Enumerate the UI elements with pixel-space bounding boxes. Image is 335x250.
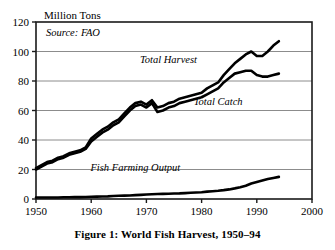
x-tick-label-1960: 1960 (80, 205, 103, 217)
y-tick-label-20: 20 (18, 164, 30, 176)
y-axis-tick-labels: 020406080100120 (13, 16, 30, 205)
x-tick-label-1970: 1970 (135, 205, 158, 217)
x-tick-label-1990: 1990 (246, 205, 269, 217)
figure-container: 020406080100120 195019601970198019902000… (0, 0, 335, 250)
y-tick-label-0: 0 (24, 193, 30, 205)
x-axis-tick-labels: 195019601970198019902000 (25, 205, 324, 217)
y-axis-unit-title: Million Tons (44, 9, 101, 21)
figure-caption: Figure 1: World Fish Harvest, 1950–94 (0, 228, 335, 240)
series-label-fish-farming-output: Fish Farming Output (89, 162, 181, 173)
series-line-fish-farming-output (36, 177, 279, 198)
chart-series-labels: Total HarvestTotal CatchFish Farming Out… (89, 54, 242, 173)
source-note: Source: FAO (46, 27, 100, 38)
x-tick-label-2000: 2000 (301, 205, 324, 217)
series-line-total-catch (36, 71, 279, 170)
y-tick-label-40: 40 (18, 134, 30, 146)
x-tick-label-1980: 1980 (191, 205, 214, 217)
y-tick-label-60: 60 (18, 105, 30, 117)
y-tick-label-120: 120 (13, 16, 30, 28)
series-label-total-harvest: Total Harvest (140, 54, 198, 65)
x-tick-label-1950: 1950 (25, 205, 48, 217)
series-label-total-catch: Total Catch (194, 96, 243, 107)
world-fish-harvest-chart: 020406080100120 195019601970198019902000… (0, 0, 335, 250)
y-tick-label-80: 80 (18, 75, 30, 87)
y-tick-label-100: 100 (13, 46, 30, 58)
